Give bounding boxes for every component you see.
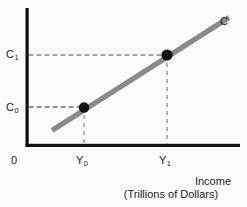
y-axis-label-c0-base: C	[6, 101, 14, 113]
x-axis-title: Income (Trillions of Dollars)	[97, 175, 245, 201]
x-axis-title-line2: (Trillions of Dollars)	[97, 188, 245, 201]
y-axis-label-c1-base: C	[6, 48, 14, 60]
x-axis-label-y1-base: Y	[159, 154, 167, 166]
x-axis-label-y1-sub: 1	[167, 159, 171, 168]
x-axis-title-line1: Income	[97, 175, 245, 188]
x-axis-label-y0-base: Y	[76, 154, 84, 166]
y-axis-label-c1: C1	[6, 49, 19, 60]
x-axis	[26, 144, 241, 147]
data-point-low	[79, 102, 89, 112]
consumption-function-line	[52, 18, 229, 131]
origin-label: 0	[11, 155, 17, 166]
y-axis-label-c0: C0	[6, 102, 19, 113]
data-point-high	[161, 49, 172, 60]
x-axis-label-y0-sub: 0	[84, 159, 88, 168]
y-axis	[26, 8, 29, 147]
x-axis-label-y0: Y0	[76, 155, 88, 166]
curve-label-c: C	[220, 16, 228, 27]
consumption-function-chart: C1 C0 0 Y0 Y1 C Income (Trillions of Dol…	[0, 0, 247, 207]
y-axis-label-c1-sub: 1	[14, 53, 18, 62]
y-axis-label-c0-sub: 0	[14, 106, 18, 115]
x-axis-label-y1: Y1	[159, 155, 171, 166]
